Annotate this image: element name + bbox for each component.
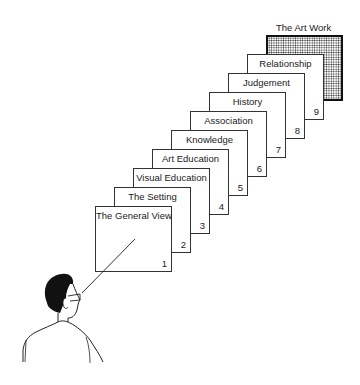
perception-stages-diagram: The Art Work Relationship 9 Judgement 8 …: [0, 0, 360, 385]
sight-line: [82, 239, 135, 293]
viewer-figure-icon: [0, 0, 360, 385]
